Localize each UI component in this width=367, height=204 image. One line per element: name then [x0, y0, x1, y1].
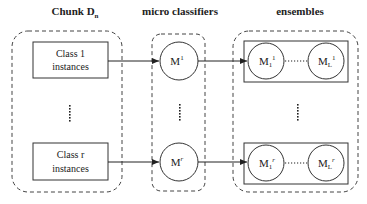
class-r-label-line1: Class r: [57, 149, 85, 160]
figure-caption-faded: [60, 195, 300, 204]
micro-ellipsis: [179, 104, 181, 121]
chunk-ellipsis: [69, 105, 71, 122]
diagram-canvas: Class 1 instances Class r instances M1 M…: [0, 0, 367, 204]
ensemble-ellipsis: [297, 104, 299, 121]
class-1-label-line2: instances: [52, 61, 89, 72]
class-1-label-line1: Class 1: [56, 48, 85, 59]
class-r-label-line2: instances: [52, 163, 89, 174]
